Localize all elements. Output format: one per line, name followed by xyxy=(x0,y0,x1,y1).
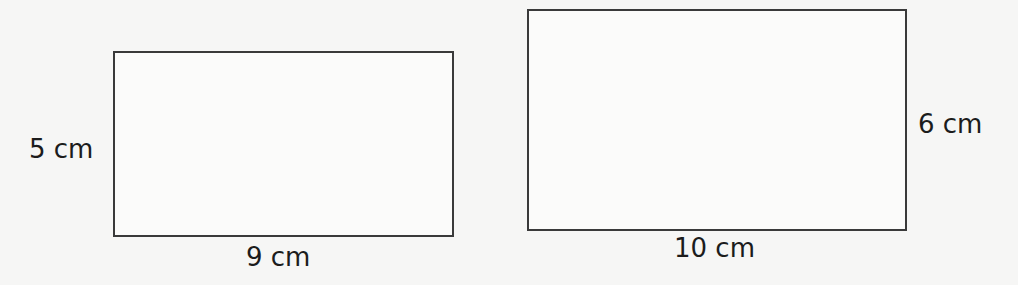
rectangle-b-height-label: 6 cm xyxy=(918,111,982,137)
rectangle-b-width-label: 10 cm xyxy=(674,235,755,261)
rectangle-b xyxy=(527,9,907,231)
rectangle-a xyxy=(113,51,454,237)
rectangle-a-width-label: 9 cm xyxy=(246,244,310,270)
rectangle-a-height-label: 5 cm xyxy=(29,136,93,162)
